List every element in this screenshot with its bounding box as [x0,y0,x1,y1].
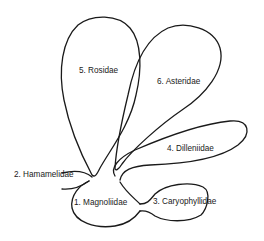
subclass-diagram: 5. Rosidae 6. Asteridae 4. Dilleniidae 2… [0,0,264,241]
label-magnoliidae: 1. Magnoliidae [74,198,128,207]
label-asteridae: 6. Asteridae [157,77,201,86]
label-hamamelidae: 2. Hamamelidae [14,170,74,179]
label-rosidae: 5. Rosidae [79,66,119,75]
label-dilleniidae: 4. Dilleniidae [167,144,214,153]
label-caryophyllidae: 3. Caryophyllidae [153,197,217,206]
